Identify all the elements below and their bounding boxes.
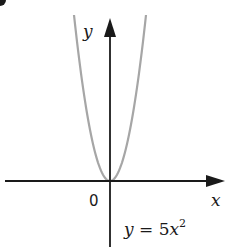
equation-y: y <box>123 219 134 239</box>
equation-equals-five: = 5 <box>134 219 170 239</box>
y-axis-arrowhead <box>104 18 116 37</box>
origin-label: 0 <box>89 192 99 210</box>
equation-exponent: 2 <box>179 217 186 230</box>
x-axis-label: x <box>211 190 221 210</box>
x-axis-arrowhead <box>206 175 225 187</box>
equation-label: y = 5x2 <box>123 217 186 239</box>
graph-svg: y x 0 y = 5x2 <box>0 0 227 247</box>
y-axis-label: y <box>82 21 93 41</box>
equation-x: x <box>169 219 179 239</box>
graph-figure: y x 0 y = 5x2 <box>0 0 227 247</box>
